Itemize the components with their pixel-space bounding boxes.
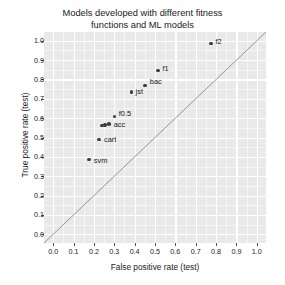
x-tick-mark xyxy=(155,243,156,246)
x-tick-mark xyxy=(216,243,217,246)
point-label: svm xyxy=(94,157,108,164)
x-tick-mark xyxy=(74,243,75,246)
plot-panel: f2f1bacjstf0.5acccartsvm xyxy=(44,32,266,243)
point-label: bac xyxy=(150,78,162,85)
data-point xyxy=(113,115,116,118)
point-label: acc xyxy=(114,121,126,128)
data-point xyxy=(143,84,146,87)
x-tick-mark xyxy=(94,243,95,246)
data-point xyxy=(97,138,100,141)
data-point xyxy=(130,90,133,93)
x-axis-title: False positive rate (test) xyxy=(44,262,266,272)
x-tick-label: 1.0 xyxy=(245,248,269,255)
x-tick-mark xyxy=(53,243,54,246)
scatter-plot-figure: Models developed with different fitness … xyxy=(0,0,285,285)
x-tick-mark xyxy=(196,243,197,246)
point-label: jst xyxy=(136,88,143,95)
point-label: f0.5 xyxy=(119,110,131,117)
x-tick-mark xyxy=(236,243,237,246)
x-tick-mark xyxy=(114,243,115,246)
chart-title: Models developed with different fitness … xyxy=(0,8,285,31)
data-point xyxy=(100,124,103,127)
x-tick-mark xyxy=(257,243,258,246)
x-tick-mark xyxy=(135,243,136,246)
data-point xyxy=(103,123,106,126)
point-label: cart xyxy=(104,136,116,143)
data-point xyxy=(107,122,110,125)
data-point xyxy=(209,42,212,45)
y-axis-title: True positive rate (test) xyxy=(20,30,30,241)
point-label: f2 xyxy=(216,38,222,45)
x-tick-mark xyxy=(175,243,176,246)
point-label: f1 xyxy=(163,65,169,72)
diagonal-reference-line xyxy=(44,32,266,243)
